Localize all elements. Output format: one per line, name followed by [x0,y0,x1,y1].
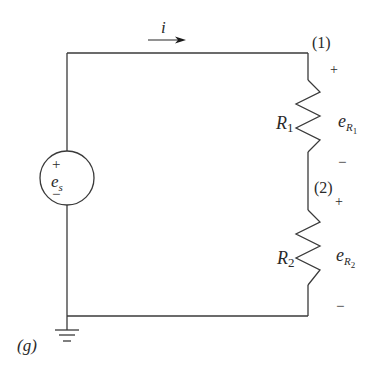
r2-plus: + [335,194,343,209]
wires [67,53,308,316]
r1-minus: − [338,154,346,170]
r1-plus: + [330,62,338,77]
r2-minus: − [336,298,344,314]
voltage-source-icon [40,151,94,205]
resistor-r2: R2 eR2 + − [276,194,355,314]
circuit-diagram: i + es − R1 eR1 + − R2 eR2 + − (1) (2) [0,0,375,369]
ground: (g) [17,316,79,355]
resistor-r2-icon [296,210,320,285]
node-1-label: (1) [312,34,331,52]
source-plus: + [52,156,60,172]
voltage-source: + es − [40,151,94,205]
r1-voltage-label: eR1 [338,111,357,136]
current-label: i [161,18,166,37]
r2-label: R2 [276,248,295,270]
source-minus: − [52,186,60,202]
ground-icon [55,330,79,341]
r2-voltage-label: eR2 [336,245,355,270]
node-2-label: (2) [314,179,333,197]
resistor-r1-icon [296,80,320,152]
r1-label: R1 [275,113,294,135]
current-indicator: i [148,18,186,44]
ground-label: (g) [17,336,37,355]
resistor-r1: R1 eR1 + − [275,62,357,170]
